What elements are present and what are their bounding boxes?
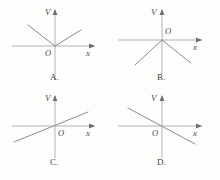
option-panel-c[interactable]: V x O C. <box>0 90 110 180</box>
v-axis-label: V <box>45 8 51 17</box>
origin-label: O <box>152 129 158 138</box>
origin-label: O <box>165 27 171 36</box>
choice-label-a: A. <box>50 73 59 82</box>
ray-right <box>162 40 191 63</box>
x-axis-label: x <box>193 43 197 52</box>
v-axis-arrow-icon <box>53 95 58 101</box>
origin-label: O <box>45 49 51 58</box>
v-axis-label: V <box>45 94 51 103</box>
choice-label-d: D. <box>157 158 166 167</box>
ray-right <box>55 30 81 46</box>
v-axis-arrow-icon <box>160 95 165 101</box>
line-positive-slope <box>14 112 88 142</box>
option-panel-b[interactable]: V x O B. <box>110 0 220 90</box>
option-panel-a[interactable]: V x O A. <box>0 0 110 90</box>
choice-label-c: C. <box>50 158 58 167</box>
option-panel-d[interactable]: V x O D. <box>110 90 220 180</box>
v-axis-arrow-icon <box>53 9 58 15</box>
x-axis-label: x <box>86 49 90 58</box>
figure-sheet: V x O A. V x O B. V x O C. <box>0 0 220 180</box>
ray-left <box>28 25 55 46</box>
choice-label-b: B. <box>157 73 165 82</box>
x-axis-label: x <box>193 129 197 138</box>
v-axis-label: V <box>151 8 157 17</box>
v-axis-label: V <box>151 94 157 103</box>
v-axis-arrow-icon <box>160 9 165 15</box>
ray-left <box>135 40 162 65</box>
x-axis-label: x <box>86 129 90 138</box>
origin-label: O <box>58 129 64 138</box>
